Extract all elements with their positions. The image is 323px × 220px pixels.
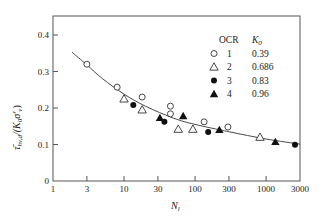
legend-header-ocr: OCR <box>219 35 239 45</box>
open-circle-point <box>114 84 120 90</box>
filled-circle-point <box>130 102 136 108</box>
legend-ocr-value: 1 <box>227 49 232 59</box>
legend-ocr-value: 4 <box>227 89 232 99</box>
legend-marker-filled-circle <box>211 78 217 84</box>
legend-k0-value: 0.686 <box>252 62 274 72</box>
open-circle-point <box>225 124 231 130</box>
legend-marker-open-circle <box>211 51 217 57</box>
x-tick-label: 300 <box>222 184 236 194</box>
x-tick-label: 100 <box>188 184 202 194</box>
y-axis-ticks: 00.10.20.30.4 <box>38 30 58 186</box>
x-tick-label: 1000 <box>257 184 276 194</box>
legend-header-k0: K0 <box>251 35 262 47</box>
filled-triangle-point <box>179 112 187 119</box>
chart: 00.10.20.30.4 13103010030010003000 OCRK0… <box>0 0 323 220</box>
legend-ocr-value: 2 <box>227 62 232 72</box>
open-triangle-point <box>138 106 146 113</box>
y-tick-label: 0 <box>45 176 50 186</box>
y-tick-label: 0.4 <box>38 30 50 40</box>
legend-ocr-value: 3 <box>227 76 232 86</box>
open-circle-point <box>167 103 173 109</box>
filled-circle-point <box>205 129 211 135</box>
x-tick-label: 30 <box>153 184 163 194</box>
x-tick-label: 10 <box>120 184 130 194</box>
y-tick-label: 0.3 <box>38 67 50 77</box>
legend-marker-open-triangle <box>210 63 218 70</box>
x-axis-ticks: 13103010030010003000 <box>51 176 310 194</box>
filled-triangle-point <box>156 114 164 121</box>
filled-circle-point <box>292 142 298 148</box>
y-tick-label: 0.2 <box>38 103 49 113</box>
x-axis-label: Nl <box>170 200 180 213</box>
y-tick-label: 0.1 <box>38 140 49 150</box>
x-tick-label: 1 <box>51 184 56 194</box>
legend-k0-value: 0.83 <box>252 76 269 86</box>
legend-marker-filled-triangle <box>210 90 218 97</box>
y-axis-label: τ̄hv,d/(K0σ′v) <box>11 105 24 150</box>
open-circle-point <box>201 119 207 125</box>
open-triangle-point <box>174 125 182 132</box>
open-circle-point <box>139 94 145 100</box>
open-circle-point <box>84 61 90 67</box>
x-tick-label: 3000 <box>291 184 310 194</box>
open-triangle-point <box>256 133 264 140</box>
x-tick-label: 3 <box>85 184 90 194</box>
legend-k0-value: 0.39 <box>252 49 269 59</box>
open-triangle-point <box>189 125 197 132</box>
open-circle-point <box>167 111 173 117</box>
legend: OCRK010.3920.68630.8340.96 <box>210 35 274 99</box>
legend-k0-value: 0.96 <box>252 89 269 99</box>
data-points <box>84 61 298 148</box>
